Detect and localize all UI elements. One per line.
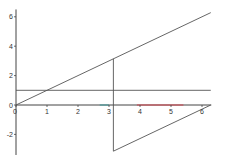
- x-tick-label: 1: [45, 108, 49, 115]
- x-tick-label: 5: [169, 108, 173, 115]
- x-tick-label: 3: [107, 108, 111, 115]
- chart: 01234566420-2: [0, 0, 226, 162]
- y-tick-label: 0: [9, 102, 13, 109]
- x-tick-label: 4: [138, 108, 142, 115]
- x-tick-label: 2: [76, 108, 80, 115]
- y-tick-label: -2: [7, 131, 13, 138]
- x-tick-label: 6: [200, 108, 204, 115]
- y-tick-label: 6: [9, 13, 13, 20]
- tick-labels: 01234566420-2: [7, 13, 204, 138]
- y-tick-label: 4: [9, 43, 13, 50]
- series-line-3: [113, 105, 210, 151]
- y-tick-label: 2: [9, 72, 13, 79]
- series-lines: [16, 13, 211, 152]
- x-tick-label: 0: [13, 108, 17, 115]
